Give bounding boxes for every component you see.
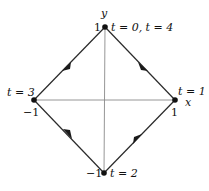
- vertex-right: [172, 97, 178, 103]
- left-value-label: −1: [23, 106, 39, 119]
- top-time-label: t = 0, t = 4: [111, 21, 173, 34]
- arrow-icon-bottom-left: [63, 129, 72, 139]
- edge-top-right: [105, 27, 175, 100]
- left-time-label: t = 3: [7, 86, 35, 99]
- y-axis-label: y: [100, 7, 108, 20]
- right-value-label: 1: [171, 106, 178, 119]
- bottom-time-label: t = 2: [110, 167, 138, 180]
- arrow-icon-left-top: [62, 62, 71, 71]
- top-value-label: 1: [94, 21, 101, 34]
- parametric-diamond-diagram: y x 1 1 −1 −1 t = 0, t = 4 t = 1 t = 2 t…: [0, 0, 209, 191]
- edge-bottom-left: [34, 100, 104, 173]
- bottom-value-label: −1: [86, 167, 102, 180]
- vertex-top: [102, 24, 108, 30]
- right-time-label: t = 1: [178, 85, 206, 98]
